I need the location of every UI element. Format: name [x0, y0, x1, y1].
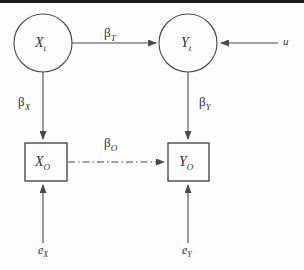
node-latent-y-label: Yt — [181, 36, 191, 53]
edge-label-beta-t: βT — [104, 26, 116, 43]
edge-label-beta-o: βO — [104, 136, 117, 153]
node-latent-x-label: Xt — [35, 36, 46, 53]
edge-label-beta-x: βX — [18, 95, 30, 112]
node-observed-y-label: YO — [179, 155, 193, 172]
node-observed-x-label: XO — [35, 155, 50, 172]
edge-label-beta-y: βY — [199, 95, 211, 112]
node-error-x-label: eX — [38, 244, 48, 259]
node-confounder-u-label: u — [283, 36, 289, 47]
figure-canvas: Xt Yt XO YO u eX eY βT βX βY βO — [0, 0, 304, 270]
node-error-y-label: eY — [182, 244, 192, 259]
